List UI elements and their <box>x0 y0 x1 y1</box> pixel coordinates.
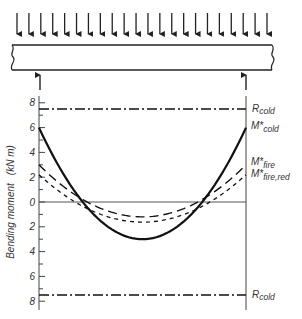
tick-label: 2 <box>28 172 35 183</box>
label-m-fire-red: M*fire,red <box>251 168 290 182</box>
beam-break-left-icon <box>11 45 14 70</box>
label-m-cold: M*cold <box>251 120 279 134</box>
tick-label: 8 <box>29 296 35 307</box>
beam-moment-diagram: 864202468 Bending moment(kN m) Rcold M*c… <box>0 0 302 319</box>
curve-labels: Rcold M*cold M*fire M*fire,red Rcold <box>251 103 290 302</box>
label-r-cold-bottom: Rcold <box>252 289 275 302</box>
distributed-load-arrows <box>17 13 267 34</box>
tick-label: 4 <box>29 147 35 158</box>
tick-label: 4 <box>29 246 35 257</box>
beam-break-right-icon <box>271 45 274 70</box>
tick-label: 6 <box>29 271 35 282</box>
label-r-cold-top: Rcold <box>252 103 275 116</box>
tick-label: 2 <box>28 221 35 232</box>
tick-label: 0 <box>29 197 35 208</box>
curve-m-cold <box>39 128 246 240</box>
y-axis-title: Bending moment(kN m) <box>5 145 16 259</box>
y-axis-ticks: 864202468 <box>28 97 45 306</box>
tick-label: 8 <box>29 97 35 108</box>
svg-text:Bending moment(kN m): Bending moment(kN m) <box>5 145 16 259</box>
curve-m-fire <box>39 165 246 217</box>
tick-label: 6 <box>29 122 35 133</box>
beam <box>11 45 274 70</box>
curve-m-fire-red <box>39 175 246 222</box>
